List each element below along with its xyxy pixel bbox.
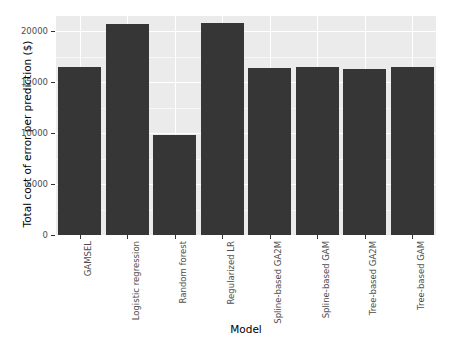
bar — [248, 68, 291, 235]
x-axis-tick-label: Random forest — [178, 241, 188, 303]
x-axis-tick-mark — [270, 235, 271, 239]
x-axis-tick-label: Tree-based GA2M — [368, 241, 378, 315]
bar — [201, 23, 244, 235]
x-axis-tick-label: Tree-based GAM — [416, 241, 426, 310]
y-axis-tick-labels: 05000100001500020000 — [0, 0, 48, 347]
bar — [58, 67, 101, 235]
y-axis-tick-mark — [51, 235, 55, 236]
x-axis-tick-mark — [127, 235, 128, 239]
bar — [296, 67, 339, 235]
x-axis-tick-mark — [365, 235, 366, 239]
y-axis-tick-label: 15000 — [0, 77, 48, 87]
y-axis-tick-mark — [51, 133, 55, 134]
x-axis-tick-label: Spline-based GA2M — [273, 241, 283, 324]
y-axis-tick-label: 0 — [0, 230, 48, 240]
x-axis-title: Model — [56, 323, 436, 335]
bar — [106, 24, 149, 235]
y-axis-tick-label: 10000 — [0, 128, 48, 138]
x-axis-tick-label: Spline-based GAM — [321, 241, 331, 318]
x-axis-tick-mark — [175, 235, 176, 239]
y-axis-tick-label: 20000 — [0, 26, 48, 36]
x-axis-tick-label: GAMSEL — [83, 241, 93, 276]
y-axis-tick-mark — [51, 82, 55, 83]
bar-chart: Total cost of error per prediction ($) 0… — [0, 0, 451, 347]
y-axis-tick-label: 5000 — [0, 179, 48, 189]
y-axis-tick-mark — [51, 184, 55, 185]
plot-panel — [56, 16, 436, 235]
x-axis-tick-label: Logistic regression — [131, 241, 141, 320]
x-axis-tick-mark — [412, 235, 413, 239]
x-axis-tick-mark — [80, 235, 81, 239]
bar — [343, 69, 386, 235]
x-axis-tick-mark — [317, 235, 318, 239]
bar — [153, 135, 196, 235]
y-axis-tick-mark — [51, 31, 55, 32]
x-axis-tick-label: Regularized LR — [226, 241, 236, 304]
x-axis-tick-mark — [222, 235, 223, 239]
bar — [391, 67, 434, 235]
